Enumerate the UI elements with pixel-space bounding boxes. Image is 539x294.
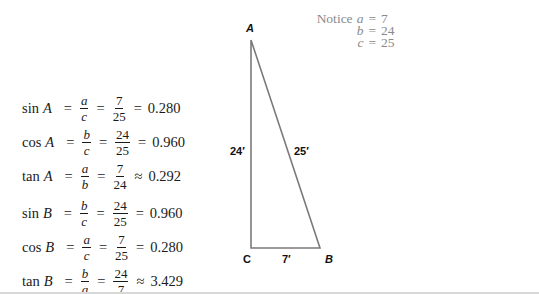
side-cb-label: 7′	[282, 253, 291, 265]
notice-label: Notice	[317, 13, 353, 25]
vertex-c-label: C	[243, 253, 251, 265]
vertex-a-label: A	[246, 22, 254, 34]
notice-row-c: c = 25	[313, 37, 397, 49]
vertex-b-label: B	[325, 253, 333, 265]
triangle-outline	[251, 40, 320, 248]
side-ac-label: 24′	[230, 145, 245, 157]
side-ab-label: 25′	[294, 145, 309, 157]
right-triangle-diagram	[0, 0, 539, 294]
notice-values: Notice a = 7 b = 24 c = 25	[313, 13, 397, 49]
